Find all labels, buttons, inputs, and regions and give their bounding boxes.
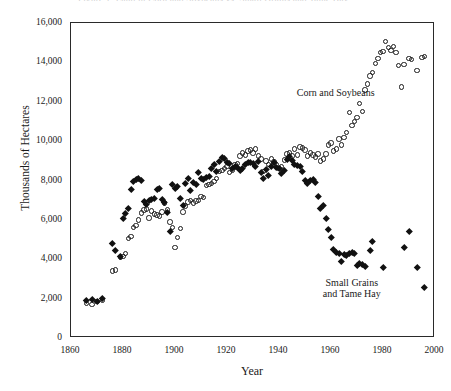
data-point-corn-and-soybeans	[172, 245, 177, 250]
data-point-corn-and-soybeans	[237, 153, 242, 158]
data-point-small-grains-and-tame-hay	[278, 170, 284, 176]
data-point-small-grains-and-tame-hay	[325, 226, 331, 232]
data-point-small-grains-and-tame-hay	[213, 168, 219, 174]
data-point-corn-and-soybeans	[305, 153, 310, 158]
data-point-small-grains-and-tame-hay	[315, 193, 321, 199]
data-point-corn-and-soybeans	[141, 207, 146, 212]
data-point-corn-and-soybeans	[201, 195, 206, 200]
data-point-corn-and-soybeans	[284, 151, 289, 156]
data-point-small-grains-and-tame-hay	[333, 249, 339, 255]
data-point-corn-and-soybeans	[341, 135, 346, 140]
data-point-small-grains-and-tame-hay	[219, 154, 225, 160]
data-point-corn-and-soybeans	[256, 153, 261, 158]
data-point-corn-and-soybeans	[386, 45, 391, 50]
data-point-small-grains-and-tame-hay	[284, 156, 290, 162]
data-point-corn-and-soybeans	[243, 152, 248, 157]
data-point-corn-and-soybeans	[378, 50, 383, 55]
data-point-small-grains-and-tame-hay	[211, 162, 217, 168]
y-axis-label: Thousands of Hectares	[19, 63, 31, 253]
data-point-small-grains-and-tame-hay	[89, 296, 95, 302]
data-point-corn-and-soybeans	[263, 158, 268, 163]
data-point-small-grains-and-tame-hay	[185, 175, 191, 181]
data-point-corn-and-soybeans	[136, 217, 141, 222]
data-point-small-grains-and-tame-hay	[297, 163, 303, 169]
data-point-small-grains-and-tame-hay	[252, 163, 258, 169]
data-point-corn-and-soybeans	[157, 213, 162, 218]
data-point-corn-and-soybeans	[214, 176, 219, 181]
data-point-small-grains-and-tame-hay	[143, 201, 149, 207]
data-point-small-grains-and-tame-hay	[128, 186, 134, 192]
data-point-small-grains-and-tame-hay	[421, 284, 427, 290]
data-point-small-grains-and-tame-hay	[224, 160, 230, 166]
data-point-corn-and-soybeans	[126, 236, 131, 241]
data-point-corn-and-soybeans	[100, 298, 105, 303]
data-point-corn-and-soybeans	[188, 198, 193, 203]
data-point-corn-and-soybeans	[419, 55, 424, 60]
data-point-small-grains-and-tame-hay	[362, 263, 368, 269]
data-point-small-grains-and-tame-hay	[351, 250, 357, 256]
data-point-corn-and-soybeans	[154, 212, 159, 217]
data-point-small-grains-and-tame-hay	[323, 215, 329, 221]
data-point-corn-and-soybeans	[336, 136, 341, 141]
data-point-corn-and-soybeans	[175, 235, 180, 240]
data-point-corn-and-soybeans	[271, 159, 276, 164]
data-point-corn-and-soybeans	[146, 215, 151, 220]
data-point-corn-and-soybeans	[331, 148, 336, 153]
data-point-corn-and-soybeans	[159, 209, 164, 214]
data-point-corn-and-soybeans	[230, 168, 235, 173]
data-point-corn-and-soybeans	[118, 255, 123, 260]
data-point-corn-and-soybeans	[422, 54, 427, 59]
data-point-corn-and-soybeans	[321, 156, 326, 161]
data-point-small-grains-and-tame-hay	[304, 180, 310, 186]
y-tick-label: 6,000	[0, 214, 62, 224]
series-annotation-small-grains-and-tame-hay: Small Grainsand Tame Hay	[297, 277, 407, 300]
data-point-corn-and-soybeans	[133, 223, 138, 228]
data-point-corn-and-soybeans	[167, 219, 172, 224]
figure-container: Figure 1. Land in Corn and Soybeans vs. …	[0, 0, 451, 391]
data-point-corn-and-soybeans	[396, 63, 401, 68]
data-point-corn-and-soybeans	[89, 302, 94, 307]
data-point-corn-and-soybeans	[414, 68, 419, 73]
series-annotation-line: Small Grains	[297, 277, 407, 289]
x-tick-label: 1940	[258, 345, 298, 355]
data-point-corn-and-soybeans	[185, 199, 190, 204]
data-point-corn-and-soybeans	[388, 48, 393, 53]
data-point-small-grains-and-tame-hay	[161, 199, 167, 205]
data-point-corn-and-soybeans	[370, 70, 375, 75]
data-point-small-grains-and-tame-hay	[310, 176, 316, 182]
data-point-corn-and-soybeans	[248, 147, 253, 152]
x-tick-label: 1880	[102, 345, 142, 355]
data-point-corn-and-soybeans	[349, 123, 354, 128]
x-tick-label: 1960	[310, 345, 350, 355]
data-point-corn-and-soybeans	[94, 299, 99, 304]
data-point-corn-and-soybeans	[196, 198, 201, 203]
data-point-small-grains-and-tame-hay	[159, 196, 165, 202]
data-point-small-grains-and-tame-hay	[154, 186, 160, 192]
data-point-small-grains-and-tame-hay	[187, 187, 193, 193]
data-point-corn-and-soybeans	[282, 157, 287, 162]
data-point-small-grains-and-tame-hay	[117, 253, 123, 259]
data-point-corn-and-soybeans	[323, 151, 328, 156]
data-point-corn-and-soybeans	[219, 168, 224, 173]
data-point-small-grains-and-tame-hay	[94, 298, 100, 304]
data-point-small-grains-and-tame-hay	[276, 165, 282, 171]
data-point-small-grains-and-tame-hay	[260, 175, 266, 181]
data-point-small-grains-and-tame-hay	[242, 162, 248, 168]
data-point-corn-and-soybeans	[198, 194, 203, 199]
data-point-corn-and-soybeans	[334, 146, 339, 151]
data-point-corn-and-soybeans	[162, 200, 167, 205]
data-point-small-grains-and-tame-hay	[307, 177, 313, 183]
data-point-corn-and-soybeans	[131, 225, 136, 230]
data-point-small-grains-and-tame-hay	[349, 249, 355, 255]
data-point-corn-and-soybeans	[204, 183, 209, 188]
data-point-corn-and-soybeans	[367, 73, 372, 78]
data-point-corn-and-soybeans	[120, 254, 125, 259]
data-point-small-grains-and-tame-hay	[120, 215, 126, 221]
data-point-small-grains-and-tame-hay	[317, 205, 323, 211]
data-point-corn-and-soybeans	[401, 62, 406, 67]
data-point-small-grains-and-tame-hay	[195, 169, 201, 175]
data-point-small-grains-and-tame-hay	[414, 264, 420, 270]
data-point-small-grains-and-tame-hay	[271, 160, 277, 166]
data-point-small-grains-and-tame-hay	[182, 180, 188, 186]
data-point-small-grains-and-tame-hay	[203, 174, 209, 180]
